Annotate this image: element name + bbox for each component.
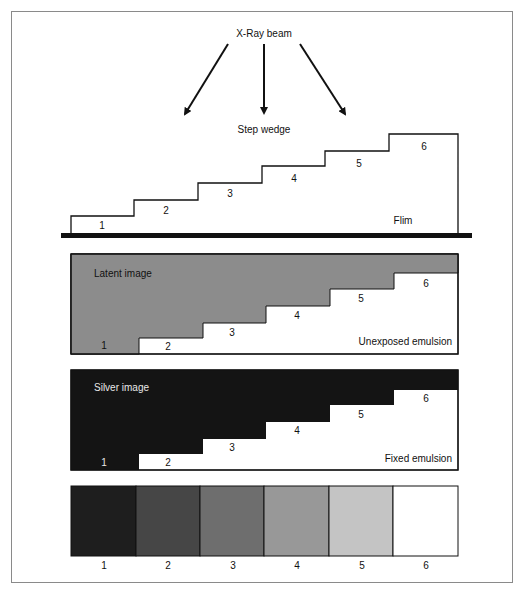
- latent-note: Unexposed emulsion: [359, 336, 452, 347]
- step-label: 2: [165, 457, 171, 468]
- beam-label: X-Ray beam: [236, 28, 292, 39]
- density-label: 6: [423, 560, 429, 571]
- latent-title: Latent image: [94, 268, 152, 279]
- step-label: 6: [423, 393, 429, 404]
- step-label: 4: [294, 425, 300, 436]
- density-cell: [200, 486, 264, 556]
- step-label: 3: [229, 327, 235, 338]
- step-wedge: Step wedge 1 2 3 4 5 6 Flim: [61, 124, 472, 238]
- step-label: 4: [291, 173, 297, 184]
- density-cell: [71, 486, 136, 556]
- silver-image-panel: Silver image Fixed emulsion 1 2 3 4 5 6: [71, 370, 458, 470]
- step-label: 5: [358, 293, 364, 304]
- density-strip: 1 2 3 4 5 6: [71, 486, 458, 571]
- arrow-left-icon: [185, 44, 228, 114]
- silver-title: Silver image: [94, 382, 149, 393]
- density-cell: [264, 486, 329, 556]
- arrow-right-icon: [300, 44, 345, 114]
- density-cell: [393, 486, 458, 556]
- step-wedge-diagram: X-Ray beam Step wedge 1 2 3 4 5 6 Flim L…: [0, 0, 524, 595]
- step-label: 4: [294, 310, 300, 321]
- silver-note: Fixed emulsion: [385, 453, 452, 464]
- step-label: 1: [101, 457, 107, 468]
- density-label: 5: [359, 560, 365, 571]
- step-label: 5: [358, 409, 364, 420]
- density-label: 3: [230, 560, 236, 571]
- step-label: 2: [163, 205, 169, 216]
- step-label: 6: [421, 141, 427, 152]
- step-label: 1: [99, 220, 105, 231]
- film-label: Flim: [394, 215, 413, 226]
- wedge-label: Step wedge: [238, 124, 291, 135]
- step-label: 6: [423, 278, 429, 289]
- step-label: 3: [229, 442, 235, 453]
- density-cell: [329, 486, 393, 556]
- step-label: 1: [101, 340, 107, 351]
- step-label: 3: [227, 188, 233, 199]
- density-label: 1: [101, 560, 107, 571]
- density-cell: [136, 486, 200, 556]
- density-label: 2: [165, 560, 171, 571]
- xray-beam: X-Ray beam: [185, 28, 345, 114]
- density-label: 4: [294, 560, 300, 571]
- step-label: 2: [165, 341, 171, 352]
- step-label: 5: [356, 158, 362, 169]
- latent-image-panel: Latent image Unexposed emulsion 1 2 3 4 …: [71, 254, 458, 354]
- film-bar: [61, 233, 472, 238]
